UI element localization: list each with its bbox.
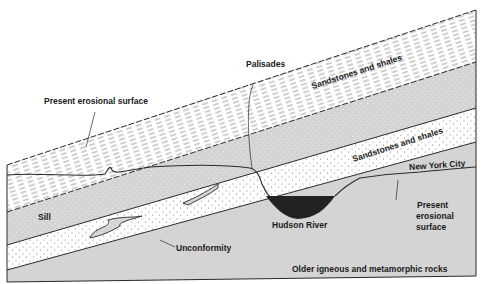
label-hudson-river: Hudson River: [272, 221, 327, 230]
label-present-erosional-right-3: surface: [416, 223, 446, 232]
label-older-rocks: Older igneous and metamorphic rocks: [292, 265, 447, 274]
label-unconformity: Unconformity: [176, 244, 231, 253]
label-present-erosional-right-1: Present: [417, 201, 448, 210]
label-present-erosional-right-2: erosional: [416, 212, 454, 221]
label-palisades: Palisades: [246, 60, 285, 69]
label-present-erosional-surface-left: Present erosional surface: [44, 97, 148, 106]
label-sill: Sill: [38, 213, 51, 222]
